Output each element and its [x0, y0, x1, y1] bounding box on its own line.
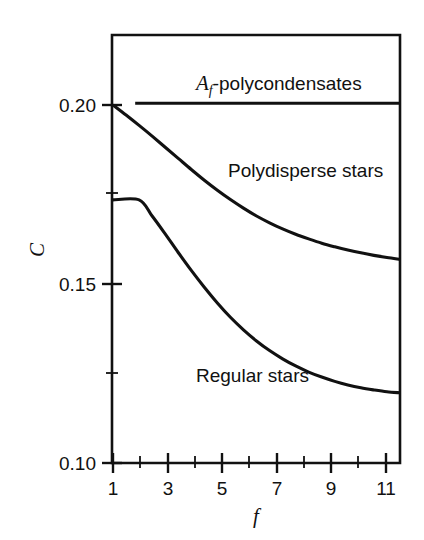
series-label-polydisperse-stars: Polydisperse stars: [228, 160, 383, 181]
series-path-regular-stars: [113, 199, 400, 393]
x-tick-label-7: 7: [272, 478, 283, 499]
y-tick-label-010: 0.10: [59, 453, 96, 474]
x-tick-labels: 1 3 5 7 9 11: [108, 478, 396, 499]
plot-canvas: 0.20 0.15 0.10 C 1 3 5 7 9 11: [0, 0, 424, 540]
frame-rectangle: [112, 35, 400, 463]
series-label-regular-stars: Regular stars: [196, 365, 309, 386]
x-tick-label-9: 9: [326, 478, 337, 499]
x-tick-label-1: 1: [108, 478, 119, 499]
series-annotations: Af-polycondensates Polydisperse stars Re…: [194, 71, 383, 386]
axes-frame: [112, 35, 400, 463]
data-series-group: [113, 103, 400, 393]
y-tick-label-020: 0.20: [59, 95, 96, 116]
y-tick-labels: 0.20 0.15 0.10: [59, 95, 96, 474]
x-tick-label-3: 3: [163, 478, 174, 499]
y-axis-title: C: [25, 242, 49, 257]
x-tick-label-11: 11: [376, 478, 396, 499]
x-tick-label-5: 5: [217, 478, 228, 499]
y-tick-label-015: 0.15: [59, 274, 96, 295]
chart-figure: 0.20 0.15 0.10 C 1 3 5 7 9 11: [0, 0, 424, 540]
series-label-af-polycondensates: Af-polycondensates: [194, 71, 362, 98]
series-path-polydisperse-stars: [113, 105, 400, 259]
x-axis-title: f: [253, 504, 262, 528]
